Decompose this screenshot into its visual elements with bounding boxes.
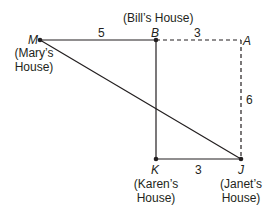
caption-k-line1: (Karen’s bbox=[131, 177, 181, 191]
label-k: K bbox=[151, 163, 159, 177]
length-mb: 5 bbox=[98, 26, 105, 40]
caption-k-line2: House) bbox=[131, 191, 181, 205]
caption-j-line2: House) bbox=[216, 191, 266, 205]
caption-m-line2: House) bbox=[14, 60, 54, 74]
caption-m-line1: (Mary’s bbox=[14, 46, 54, 60]
segment-mj bbox=[40, 40, 241, 159]
point-m bbox=[38, 38, 43, 43]
length-ba: 3 bbox=[194, 26, 201, 40]
label-m: M bbox=[28, 33, 38, 47]
point-k bbox=[154, 157, 159, 162]
length-aj: 6 bbox=[246, 93, 253, 107]
label-j: J bbox=[238, 163, 244, 177]
point-j bbox=[239, 157, 244, 162]
caption-b: (Bill’s House) bbox=[123, 11, 193, 25]
caption-j-line1: (Janet’s bbox=[216, 177, 266, 191]
label-a: A bbox=[243, 34, 251, 48]
label-b: B bbox=[151, 26, 159, 40]
length-kj: 3 bbox=[195, 163, 202, 177]
